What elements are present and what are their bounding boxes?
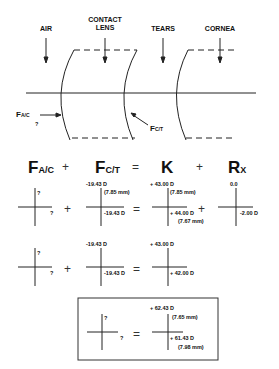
label-contact: CONTACT (85, 16, 125, 24)
f-ac-unknown: ? (35, 121, 38, 127)
r1-c2-top: -19.43 D (86, 181, 107, 187)
box-c2-top: + 62.43 D (150, 305, 174, 311)
r1-c3-top: + 43.00 D (150, 181, 174, 187)
r1-c4-top: 0.0 (230, 181, 238, 187)
box-c2-right-mm: (7.98 mm) (178, 344, 204, 350)
r2-c3-top: + 43.00 D (150, 241, 174, 247)
r1-op1: + (64, 202, 71, 216)
box-c1-right: ? (120, 335, 123, 341)
r1-c1-right: ? (50, 210, 53, 216)
r1-c3-right: + 44.00 D (170, 210, 194, 216)
r1-c3-right-mm: (7.67 mm) (178, 218, 204, 224)
r1-op2: = (133, 202, 140, 216)
r2-op2: = (133, 262, 140, 276)
eq-k: K (161, 158, 173, 178)
r2-c3-right: + 42.00 D (170, 270, 194, 276)
r2-c1-top: ? (37, 250, 40, 256)
label-lens: LENS (85, 24, 125, 32)
box-op: = (133, 327, 140, 341)
r1-c3-mm: (7.85 mm) (170, 189, 196, 195)
box-c1-top: ? (104, 315, 107, 321)
label-f-ct: FC/T (150, 124, 163, 133)
box-c2-right: + 61.43 D (170, 335, 194, 341)
eq-f-ac: FA/C (28, 158, 54, 178)
r1-op3: + (198, 202, 205, 216)
label-tears: TEARS (148, 25, 178, 33)
r2-c2-right: -19.43 D (104, 270, 125, 276)
r1-c4-right: -2.00 D (240, 210, 258, 216)
r1-c2-right: -19.43 D (104, 210, 125, 216)
r2-c2-top: -19.43 D (86, 241, 107, 247)
r1-c2-mm: (7.85 mm) (104, 189, 130, 195)
eq-rx: RX (228, 158, 246, 178)
r1-c1-top: ? (37, 190, 40, 196)
eq-plus-2: + (196, 160, 203, 174)
r2-c1-right: ? (50, 270, 53, 276)
label-air: AIR (36, 25, 56, 33)
eq-f-ct: FC/T (95, 158, 120, 178)
label-cornea: CORNEA (200, 25, 240, 33)
box-c2-mm: (7.65 mm) (172, 314, 198, 320)
eq-equals: = (132, 160, 139, 174)
label-f-ac: FA/C (16, 110, 30, 119)
eq-plus: + (62, 160, 69, 174)
r2-op1: + (64, 262, 71, 276)
